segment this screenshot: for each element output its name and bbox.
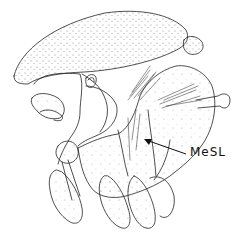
spiracle [86,75,97,88]
mesl-label: MeSL [190,145,226,159]
pronotal-lobe [31,94,64,119]
tegula [183,36,203,54]
anatomy-drawing [0,0,242,239]
mesepisternum [78,66,215,198]
trochanter-joint [56,141,78,163]
